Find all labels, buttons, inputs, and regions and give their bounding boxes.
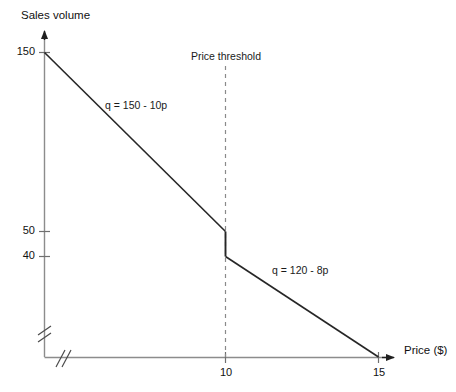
- equation-upper-label: q = 150 - 10p: [105, 100, 167, 111]
- x-tick-label-10: 10: [206, 367, 246, 378]
- price-threshold-label: Price threshold: [166, 51, 286, 62]
- equation-lower-label: q = 120 - 8p: [272, 265, 328, 276]
- x-axis-break-icon: [56, 350, 71, 367]
- y-axis-title: Sales volume: [21, 10, 90, 22]
- x-tick-label-15: 15: [359, 367, 399, 378]
- x-axis-title: Price ($): [404, 345, 447, 357]
- y-tick-label-40: 40: [0, 250, 35, 261]
- demand-segment-upper: [45, 53, 226, 232]
- y-tick-label-50: 50: [0, 225, 35, 236]
- chart-container: Sales volume Price ($) 150 50 40 10 15 P…: [0, 0, 456, 392]
- y-tick-label-150: 150: [0, 46, 35, 57]
